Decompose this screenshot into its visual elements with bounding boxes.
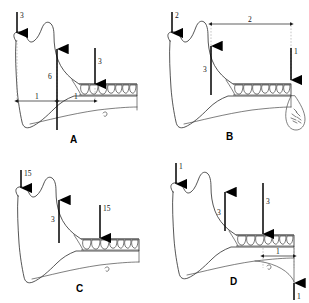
traction-appliance-b [286,96,305,130]
condyle-down-arrow-label-a: 3 [20,11,24,20]
panel-letter-c: C [76,283,83,294]
panel-a: 3 6 3 1 1 A [14,11,137,145]
mental-foramen-a [103,112,107,116]
panel-c: 15 3 15 C [16,169,139,294]
condyle-down-arrow-label-b: 2 [175,11,179,20]
mandible-figure-svg: 3 6 3 1 1 A [0,0,309,303]
figure-container: 3 6 3 1 1 A [0,0,309,303]
anterior-down-arrow-label-b: 1 [294,47,298,56]
dimension-span-label-d: 1 [276,247,280,256]
ramus-up-arrow-label-a: 6 [48,72,52,81]
panel-b: 2 3 1 2 B [168,11,305,142]
mandible-angle-d [255,261,294,282]
angle-up-arrow-label-d: 1 [297,292,301,301]
ramus-up-arrow-label-c: 3 [51,215,55,224]
dimension-left-label-a: 1 [35,92,39,101]
molar-down-arrow-label-c: 15 [103,204,111,213]
dimension-right-label-a: 1 [74,92,78,101]
panel-letter-d: D [230,276,237,287]
ramus-up-arrow-label-b: 3 [203,65,207,74]
panel-letter-a: A [70,134,77,145]
mandible-outline-c [16,177,139,283]
mandible-outline-a [14,22,137,128]
mandible-outline-d [171,172,294,279]
panel-d: 1 3 3 1 1 D [171,162,301,301]
panel-letter-b: B [226,131,233,142]
ramus-up-arrow-label-d: 3 [217,208,221,217]
mental-foramen-d [267,265,271,269]
mandible-outline-b [168,21,291,128]
molar-down-arrow-label-d: 3 [266,197,270,206]
mental-foramen-c [105,267,109,271]
molar-down-arrow-label-a: 3 [98,57,102,66]
condyle-down-arrow-label-c: 15 [24,169,32,178]
dimension-span-label-b: 2 [248,15,252,24]
condyle-down-arrow-label-d: 1 [179,162,183,171]
